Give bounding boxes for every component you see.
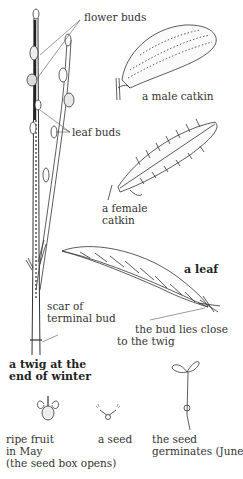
label-germ-1: the seed (152, 434, 197, 445)
label-leaf-buds: leaf buds (72, 127, 121, 138)
twig-main (27, 9, 42, 355)
label-flower-buds: flower buds (84, 12, 146, 23)
leaf (62, 247, 220, 312)
label-leaf: a leaf (184, 264, 218, 276)
ripe-fruit (37, 396, 58, 420)
label-fruit-2: in May (6, 446, 42, 457)
label-bud-close-2: to the twig (117, 336, 175, 347)
label-bud-close-1: the bud lies close (135, 324, 228, 335)
male-catkin (116, 25, 216, 100)
label-female-catkin-2: catkin (102, 215, 135, 226)
label-female-catkin-1: a female (102, 203, 148, 214)
seedling (172, 362, 199, 430)
label-fruit-3: (the seed box opens) (6, 458, 116, 469)
title-twig-2: end of winter (9, 371, 91, 383)
female-catkin (108, 119, 217, 200)
label-male-catkin: a male catkin (142, 91, 214, 102)
label-germ-2: germinates (June) (152, 446, 243, 457)
label-fruit-1: ripe fruit (6, 434, 54, 445)
label-seed: a seed (98, 434, 132, 445)
illustration (0, 0, 243, 479)
label-scar-1: scar of (47, 301, 83, 312)
label-scar-2: terminal bud (47, 313, 116, 324)
seed (96, 404, 120, 420)
